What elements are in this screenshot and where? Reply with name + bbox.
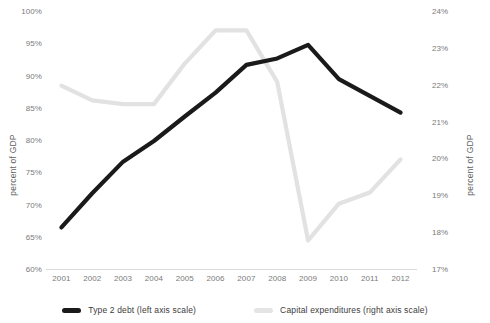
x-axis-tick: 2005	[176, 274, 194, 283]
legend-item[interactable]: Capital expenditures (right axis scale)	[254, 305, 428, 315]
legend-swatch-icon	[62, 308, 81, 313]
plot-area	[46, 12, 416, 270]
x-axis-tick: 2001	[52, 274, 70, 283]
right-axis-title: percent of GDP	[465, 120, 475, 210]
legend-label: Capital expenditures (right axis scale)	[280, 305, 428, 315]
x-axis-tick: 2011	[361, 274, 379, 283]
x-axis-tick: 2004	[145, 274, 163, 283]
legend-item[interactable]: Type 2 debt (left axis scale)	[62, 305, 196, 315]
series-lines	[46, 12, 416, 270]
series-line	[61, 30, 400, 240]
x-axis-tick: 2010	[330, 274, 348, 283]
legend-swatch-icon	[254, 308, 273, 313]
x-axis-tick: 2012	[391, 274, 409, 283]
x-axis-tick: 2007	[237, 274, 255, 283]
x-axis-tick: 2008	[268, 274, 286, 283]
x-axis-tick: 2002	[83, 274, 101, 283]
left-axis-title: percent of GDP	[8, 120, 18, 210]
dual-axis-line-chart: 60%65%70%75%80%85%90%95%100% 17%18%19%20…	[0, 0, 490, 323]
x-axis-tick: 2009	[299, 274, 317, 283]
legend-label: Type 2 debt (left axis scale)	[88, 305, 196, 315]
x-axis-tick: 2003	[114, 274, 132, 283]
chart-legend: Type 2 debt (left axis scale)Capital exp…	[0, 299, 490, 321]
x-axis-tick: 2006	[206, 274, 224, 283]
